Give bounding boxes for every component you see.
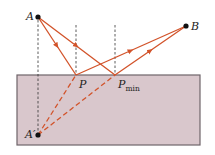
- label-P: P: [78, 78, 87, 91]
- ray-A-Pmin: [38, 17, 115, 75]
- point-B: [183, 23, 188, 28]
- point-A-image: [35, 132, 40, 137]
- ray-P-B: [76, 26, 186, 75]
- ray-A-P: [38, 17, 76, 75]
- label-A: A: [25, 10, 34, 23]
- label-Pmin-sub: min: [125, 84, 140, 93]
- ray-Pmin-B: [115, 26, 186, 75]
- reflection-diagram: A B P Pmin A′: [0, 0, 215, 155]
- reflecting-surface: [17, 75, 200, 145]
- label-A-image: A′: [24, 128, 36, 141]
- label-B: B: [190, 20, 199, 33]
- point-A: [35, 14, 40, 19]
